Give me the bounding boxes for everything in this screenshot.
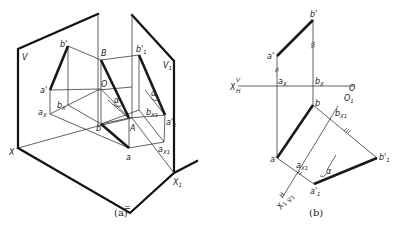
label-b-b: b: [315, 99, 320, 108]
projection-diagram: V V1 X X1 b' a' B O bX aX b A a b'1 a'1 …: [0, 0, 397, 226]
label-alpha-2: α: [151, 89, 157, 98]
construction-lines-b: [277, 20, 377, 184]
segment-a-prime-b-prime-b: [277, 20, 313, 56]
label-v-plane: V: [22, 53, 28, 62]
label-b1-prime-b: b'1: [379, 153, 390, 163]
label-b: b: [96, 124, 101, 133]
label-B: B: [101, 49, 107, 58]
label-alpha-1: α: [114, 96, 120, 105]
label-x-axis-b: X: [229, 83, 236, 92]
label-ax1: aX1: [158, 145, 170, 155]
label-bx1-b: bX1: [335, 109, 347, 119]
label-O-b: O: [349, 84, 355, 93]
v-plane-outline: [18, 14, 98, 148]
label-x1-axis: X1: [172, 178, 182, 188]
label-A: A: [129, 124, 135, 133]
caption-b: (b): [309, 207, 323, 218]
segment-a-b-b: [277, 105, 313, 158]
label-bx1: bX1: [146, 108, 158, 118]
h-plane-outline: [18, 148, 197, 213]
segment-a-b: [101, 124, 129, 148]
label-b1-prime: b'1: [136, 45, 147, 55]
label-a-b: a: [270, 155, 275, 164]
label-a1-prime-b: a'1: [310, 187, 321, 197]
label-ax1-b: aX1: [296, 161, 308, 171]
label-v1-x1-b: V1: [285, 193, 296, 204]
label-a: a: [126, 153, 131, 162]
segment-a1-b1: [139, 55, 165, 115]
label-a-prime-b: a': [267, 52, 274, 61]
x1-axis-line: [282, 106, 338, 198]
label-b-prime: b': [60, 40, 67, 49]
label-b-prime-b: b': [310, 10, 317, 19]
label-v-b: V: [236, 76, 241, 83]
caption-a: (a): [114, 207, 128, 218]
label-bx: bX: [57, 101, 66, 111]
figure-a: V V1 X X1 b' a' B O bX aX b A a b'1 a'1 …: [8, 14, 197, 218]
label-O: O: [101, 80, 107, 89]
label-ax-b: aX: [278, 77, 287, 87]
x1-axis-labels: X1 H V1: [271, 188, 296, 214]
label-ax: aX: [38, 108, 47, 118]
label-a-prime: a': [40, 86, 47, 95]
label-v1-plane: V1: [163, 61, 172, 71]
label-x-axis: X: [8, 148, 15, 157]
figure-b: b' a' aX bX O O1 X V H b a bX1 aX1 b'1 a…: [229, 10, 390, 218]
segment-a-prime-b-prime: [50, 46, 68, 90]
label-h-x1-b: H: [278, 190, 287, 198]
label-h-b: H: [236, 87, 241, 94]
label-bx-b: bX: [315, 77, 324, 87]
label-O1-b: O1: [344, 94, 354, 104]
label-alpha-b: α: [326, 167, 332, 176]
segment-a1-b1-b: [314, 158, 377, 184]
